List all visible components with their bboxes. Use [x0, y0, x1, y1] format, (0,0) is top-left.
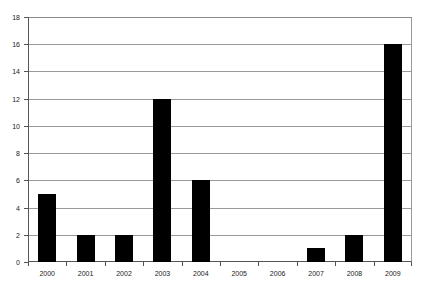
- y-tick-label: 10: [12, 122, 20, 129]
- x-tick-mark: [143, 262, 144, 266]
- bar-slot: [335, 17, 373, 262]
- x-tick-cell: [297, 262, 335, 266]
- bar[interactable]: [192, 180, 210, 262]
- x-tick-cell: [28, 262, 66, 266]
- bar-slot: [105, 17, 143, 262]
- bar[interactable]: [153, 99, 171, 262]
- y-tick-label: 16: [12, 41, 20, 48]
- x-axis: 2000200120022003200420052006200720082009: [28, 268, 412, 282]
- x-tick-mark: [374, 262, 375, 266]
- y-tick-label: 0: [16, 259, 20, 266]
- x-tick-label: 2001: [66, 268, 104, 282]
- x-tick-label: 2003: [143, 268, 181, 282]
- x-tick-mark: [297, 262, 298, 266]
- bar[interactable]: [38, 194, 56, 262]
- x-tick-mark: [105, 262, 106, 266]
- x-tick-mark: [335, 262, 336, 266]
- x-tick-label: 2008: [335, 268, 373, 282]
- bar-slot: [297, 17, 335, 262]
- bar-slot: [143, 17, 181, 262]
- y-tick-label: 6: [16, 177, 20, 184]
- x-tick-label: 2004: [182, 268, 220, 282]
- y-tick-label: 8: [16, 150, 20, 157]
- x-tick-cell: [374, 262, 412, 266]
- bar-slot: [182, 17, 220, 262]
- bar-slot: [258, 17, 296, 262]
- x-tick-mark: [411, 262, 412, 266]
- y-tick-label: 18: [12, 14, 20, 21]
- x-tick-cell: [66, 262, 104, 266]
- y-tick-label: 14: [12, 68, 20, 75]
- x-tick-mark: [182, 262, 183, 266]
- x-tick-label: 2005: [220, 268, 258, 282]
- bar[interactable]: [345, 235, 363, 262]
- bar-chart: 181614121086420 200020012002200320042005…: [0, 0, 427, 294]
- bar[interactable]: [384, 44, 402, 262]
- x-tick-mark: [66, 262, 67, 266]
- bar-slot: [374, 17, 412, 262]
- x-tick-cell: [258, 262, 296, 266]
- x-tick-cell: [182, 262, 220, 266]
- bars-layer: [28, 17, 412, 262]
- y-tick-label: 12: [12, 95, 20, 102]
- bar-slot: [66, 17, 104, 262]
- x-tick-label: 2009: [374, 268, 412, 282]
- bar[interactable]: [77, 235, 95, 262]
- x-tick-mark: [258, 262, 259, 266]
- x-tick-label: 2002: [105, 268, 143, 282]
- x-tick-mark: [220, 262, 221, 266]
- y-tick-label: 2: [16, 231, 20, 238]
- bar[interactable]: [307, 248, 325, 262]
- y-tick-label: 4: [16, 204, 20, 211]
- x-tick-label: 2007: [297, 268, 335, 282]
- y-axis: 181614121086420: [0, 17, 24, 262]
- bar[interactable]: [115, 235, 133, 262]
- x-tick-label: 2000: [28, 268, 66, 282]
- x-tick-cell: [143, 262, 181, 266]
- x-tick-label: 2006: [258, 268, 296, 282]
- x-tick-cell: [105, 262, 143, 266]
- bar-slot: [28, 17, 66, 262]
- x-tick-mark: [28, 262, 29, 266]
- x-tick-cell: [335, 262, 373, 266]
- bar-slot: [220, 17, 258, 262]
- x-axis-ticks: [28, 262, 412, 266]
- x-tick-cell: [220, 262, 258, 266]
